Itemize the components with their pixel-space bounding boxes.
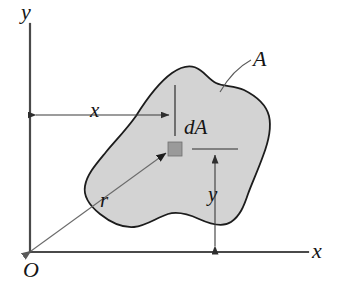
x-distance-label: x: [90, 100, 99, 121]
differential-area-label: dA: [184, 117, 207, 138]
x-axis-label: x: [312, 240, 322, 262]
figure-canvas: y x O A dA x y r: [0, 0, 356, 305]
radius-label: r: [100, 190, 108, 211]
differential-area-square: [168, 142, 182, 156]
y-distance-label: y: [208, 184, 217, 205]
y-axis-label: y: [21, 1, 31, 23]
figure-diagram-svg: [0, 0, 356, 305]
area-label: A: [253, 48, 266, 70]
origin-label: O: [23, 259, 39, 281]
